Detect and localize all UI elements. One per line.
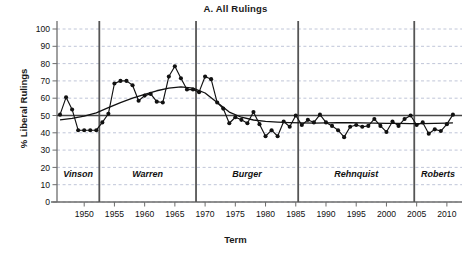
x-tick-label: 1975	[226, 209, 245, 219]
data-point-marker	[58, 113, 62, 117]
data-point-marker	[82, 128, 86, 132]
data-point-marker	[427, 132, 431, 136]
data-line	[60, 66, 453, 137]
era-label-warren: Warren	[132, 169, 163, 179]
data-point-marker	[263, 134, 267, 138]
x-tick-label: 1970	[196, 209, 215, 219]
data-point-marker	[100, 120, 104, 124]
era-label-burger: Burger	[232, 169, 262, 179]
chart-figure: A. All Rulings % Liberal Rulings 0102030…	[0, 0, 471, 257]
era-label-roberts: Roberts	[421, 169, 455, 179]
y-tick-label: 70	[40, 76, 50, 86]
data-point-marker	[215, 100, 219, 104]
x-tick-label: 1955	[105, 209, 124, 219]
data-point-marker	[149, 92, 153, 96]
data-point-marker	[366, 124, 370, 128]
data-point-marker	[445, 122, 449, 126]
plot-area: 0102030405060708090100195019551960196519…	[0, 0, 471, 257]
x-tick-label: 2010	[437, 209, 456, 219]
data-point-marker	[270, 128, 274, 132]
data-point-marker	[94, 128, 98, 132]
x-tick-label: 1995	[347, 209, 366, 219]
y-tick-label: 100	[36, 24, 51, 34]
data-point-marker	[221, 107, 225, 111]
data-point-marker	[342, 135, 346, 139]
x-tick-label: 1990	[316, 209, 335, 219]
data-point-marker	[191, 88, 195, 92]
data-point-marker	[409, 113, 413, 117]
data-point-marker	[421, 120, 425, 124]
data-point-marker	[251, 110, 255, 114]
x-tick-label: 1980	[256, 209, 275, 219]
data-point-marker	[118, 79, 122, 83]
x-tick-label: 1985	[286, 209, 305, 219]
data-point-marker	[112, 81, 116, 85]
y-tick-label: 90	[40, 41, 50, 51]
data-point-marker	[257, 122, 261, 126]
data-point-marker	[372, 117, 376, 121]
data-point-marker	[348, 125, 352, 129]
data-point-marker	[203, 75, 207, 79]
x-tick-label: 1950	[75, 209, 94, 219]
data-point-marker	[64, 95, 68, 99]
data-point-marker	[227, 121, 231, 125]
data-point-marker	[415, 123, 419, 127]
y-tick-label: 80	[40, 59, 50, 69]
x-axis-label: Term	[0, 234, 471, 245]
data-point-marker	[173, 64, 177, 68]
data-point-marker	[70, 107, 74, 111]
data-point-marker	[161, 100, 165, 104]
data-point-marker	[239, 118, 243, 122]
data-point-marker	[167, 75, 171, 79]
data-point-marker	[276, 134, 280, 138]
data-point-marker	[88, 128, 92, 132]
data-point-marker	[403, 117, 407, 121]
data-point-marker	[378, 124, 382, 128]
data-point-marker	[137, 99, 141, 103]
data-point-marker	[185, 88, 189, 92]
data-point-marker	[155, 100, 159, 104]
y-tick-label: 0	[45, 197, 50, 207]
x-tick-label: 2000	[377, 209, 396, 219]
x-tick-label: 1960	[135, 209, 154, 219]
data-point-marker	[197, 90, 201, 94]
data-point-marker	[318, 113, 322, 117]
data-point-marker	[396, 124, 400, 128]
y-tick-label: 20	[40, 163, 50, 173]
data-point-marker	[439, 129, 443, 133]
x-tick-label: 2005	[407, 209, 426, 219]
x-tick-label: 1965	[165, 209, 184, 219]
data-point-marker	[330, 124, 334, 128]
data-point-marker	[451, 113, 455, 117]
data-point-marker	[143, 94, 147, 98]
data-point-marker	[324, 120, 328, 124]
data-point-marker	[76, 128, 80, 132]
era-label-rehnquist: Rehnquist	[334, 169, 379, 179]
data-point-marker	[384, 130, 388, 134]
data-point-marker	[336, 128, 340, 132]
data-point-marker	[124, 79, 128, 83]
data-point-marker	[106, 112, 110, 116]
data-point-marker	[245, 121, 249, 125]
data-point-marker	[390, 120, 394, 124]
data-point-marker	[306, 118, 310, 122]
data-point-marker	[179, 76, 183, 80]
data-point-marker	[433, 127, 437, 131]
data-point-marker	[294, 113, 298, 117]
data-point-marker	[209, 77, 213, 81]
data-point-marker	[312, 120, 316, 124]
y-tick-label: 10	[40, 180, 50, 190]
data-point-marker	[288, 125, 292, 129]
data-point-marker	[360, 125, 364, 129]
era-label-vinson: Vinson	[63, 169, 93, 179]
data-point-marker	[300, 123, 304, 127]
data-point-marker	[131, 83, 135, 87]
y-tick-label: 30	[40, 145, 50, 155]
y-tick-label: 60	[40, 93, 50, 103]
data-point-marker	[354, 123, 358, 127]
y-tick-label: 40	[40, 128, 50, 138]
data-point-marker	[282, 120, 286, 124]
y-tick-label: 50	[40, 111, 50, 121]
data-point-marker	[233, 115, 237, 119]
